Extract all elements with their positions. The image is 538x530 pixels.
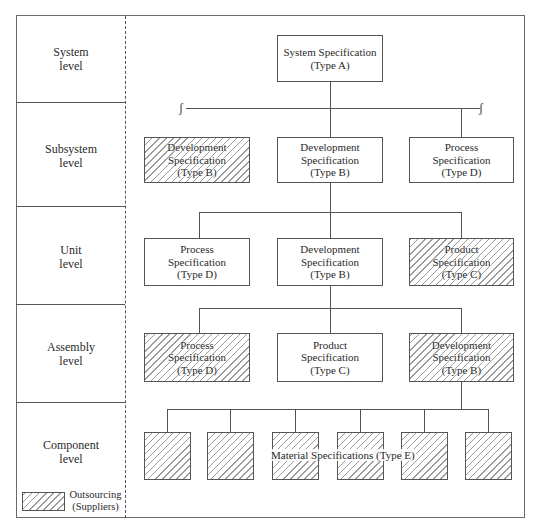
material-spec-box [207,432,254,480]
connector-line [230,409,231,432]
material-spec-box [144,432,191,480]
spec-box-label: System Specification (Type A) [283,46,376,71]
connector-line [330,81,331,137]
connector-line [199,308,200,333]
connector-bus-component [167,409,488,410]
connector-line [461,108,462,137]
connector-line [199,212,200,238]
legend-hatch-swatch [22,492,65,511]
spec-box-subsystem-development-outsourced: Development Specification (Type B) [144,137,250,183]
material-spec-box [465,432,512,480]
spec-box-unit-development: Development Specification (Type B) [277,238,383,286]
spec-box-subsystem-development: Development Specification (Type B) [277,137,383,183]
material-specifications-label: Material Specifications (Type E) [270,449,416,461]
level-label-unit: Unit level [17,243,125,271]
spec-box-label: Development Specification (Type B) [167,141,226,179]
connector-line [360,409,361,432]
connector-line [461,212,462,238]
connector-bus-assembly [199,308,461,309]
connector-line [488,409,489,432]
spec-box-label: Development Specification (Type B) [300,243,359,281]
connector-line [424,409,425,432]
break-symbol-left: ʃ [179,102,183,114]
spec-box-label: Process Specification (Type D) [432,141,490,179]
level-divider [16,102,125,103]
break-symbol-right: ʃ [479,102,483,114]
spec-box-label: Product Specification (Type C) [432,243,490,281]
spec-box-label: Process Specification (Type D) [168,243,226,281]
level-label-system: System level [17,45,125,73]
spec-box-label: Product Specification (Type C) [301,339,359,377]
spec-box-label: Development Specification (Type B) [300,141,359,179]
level-column-separator [125,16,126,518]
spec-box-label: Development Specification (Type B) [432,339,491,377]
legend-outsourcing-label: Outsourcing (Suppliers) [68,489,123,513]
connector-line [330,285,331,333]
connector-bus-subsystem [186,108,480,109]
level-divider [16,206,125,207]
connector-line [330,182,331,238]
connector-line [295,409,296,432]
spec-box-label: Process Specification (Type D) [168,339,226,377]
level-label-subsystem: Subsystem level [17,142,125,170]
connector-line [461,381,462,409]
spec-box-system-type-a: System Specification (Type A) [277,35,383,82]
spec-box-unit-process: Process Specification (Type D) [144,238,250,286]
connector-line [461,308,462,333]
spec-box-assembly-development-outsourced: Development Specification (Type B) [409,333,514,382]
connector-bus-unit [199,212,461,213]
level-label-assembly: Assembly level [17,340,125,368]
level-divider [16,304,125,305]
spec-box-unit-product-outsourced: Product Specification (Type C) [409,238,514,286]
spec-box-assembly-process-outsourced: Process Specification (Type D) [144,333,250,382]
level-label-component: Component level [17,438,125,466]
spec-box-subsystem-process: Process Specification (Type D) [409,137,514,183]
level-divider [16,402,125,403]
connector-line [167,409,168,432]
spec-box-assembly-product: Product Specification (Type C) [277,333,383,382]
